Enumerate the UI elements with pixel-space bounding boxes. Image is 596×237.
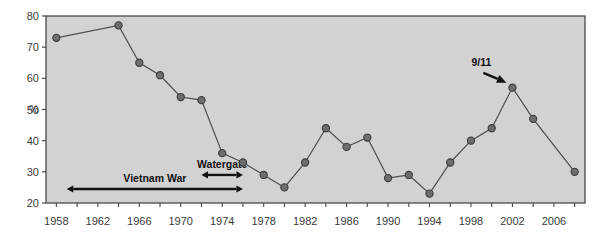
data-point-marker [115,22,122,29]
x-axis-tick-label: 1998 [459,215,483,227]
x-axis-tick-label: 1966 [127,215,151,227]
y-axis-unit-label: % [29,103,39,115]
x-axis-tick-label: 1994 [417,215,441,227]
y-axis-tick-label: 40 [27,135,39,147]
x-axis-tick-label: 1962 [86,215,110,227]
data-point-marker [530,115,537,122]
x-axis-tick-label: 1986 [334,215,358,227]
pointer-annotation-label: 9/11 [471,56,491,68]
data-point-marker [260,171,267,178]
data-point-marker [219,150,226,157]
data-point-marker [447,159,454,166]
data-point-marker [343,143,350,150]
data-point-marker [384,174,391,181]
data-point-marker [426,190,433,197]
data-point-marker [281,184,288,191]
span-annotation-label: Vietnam War [123,172,186,184]
x-axis-tick-label: 2006 [542,215,566,227]
x-axis-tick-label: 1970 [169,215,193,227]
y-axis-tick-label: 30 [27,166,39,178]
y-axis-tick-label: 60 [27,72,39,84]
data-point-marker [53,34,60,41]
y-axis-tick-label: 80 [27,10,39,22]
data-point-marker [405,171,412,178]
x-axis-tick-label: 2002 [500,215,524,227]
x-axis-tick-label: 1990 [376,215,400,227]
data-point-marker [239,159,246,166]
data-point-marker [322,125,329,132]
trust-in-government-line-chart: 20304050607080 1958196219661970197419781… [0,0,596,237]
data-point-marker [509,84,516,91]
data-point-marker [302,159,309,166]
data-point-marker [488,125,495,132]
data-point-marker [571,168,578,175]
data-point-marker [136,59,143,66]
x-axis-tick-label: 1958 [44,215,68,227]
y-axis-tick-label: 70 [27,41,39,53]
x-axis-tick-label: 1982 [293,215,317,227]
x-axis-tick-label: 1974 [210,215,234,227]
data-point-marker [467,137,474,144]
data-point-marker [364,134,371,141]
chart-container: 20304050607080 1958196219661970197419781… [0,0,596,237]
x-axis-tick-label: 1978 [251,215,275,227]
data-point-marker [198,97,205,104]
data-point-marker [156,72,163,79]
y-axis-tick-label: 20 [27,197,39,209]
data-point-marker [177,93,184,100]
